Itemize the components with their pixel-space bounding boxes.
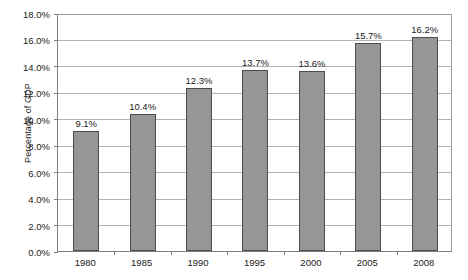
bar-slot: 13.7% (227, 14, 283, 251)
bar-value-label: 15.7% (355, 30, 382, 41)
bar[interactable] (242, 70, 268, 251)
x-tick-mark (227, 251, 228, 255)
y-tick-label: 8.0% (4, 141, 50, 152)
bar[interactable] (412, 37, 438, 251)
y-tick-label: 2.0% (4, 220, 50, 231)
x-tick-label: 1980 (75, 257, 96, 268)
bar[interactable] (186, 88, 212, 251)
x-tick-mark (397, 251, 398, 255)
x-tick-label: 1985 (131, 257, 152, 268)
bar-value-label: 9.1% (75, 118, 97, 129)
bar-slot: 13.6% (284, 14, 340, 251)
x-tick-label: 2005 (357, 257, 378, 268)
y-tick-label: 6.0% (4, 167, 50, 178)
x-tick-mark (284, 251, 285, 255)
bar-value-label: 13.6% (298, 58, 325, 69)
bar-series: 9.1%10.4%12.3%13.7%13.6%15.7%16.2% (58, 14, 452, 251)
bar-slot: 9.1% (58, 14, 114, 251)
bar-slot: 15.7% (340, 14, 396, 251)
y-tick-label: 10.0% (4, 114, 50, 125)
y-axis-tick-labels: 0.0%2.0%4.0%6.0%8.0%10.0%12.0%14.0%16.0%… (4, 0, 50, 280)
x-tick-mark (114, 251, 115, 255)
y-tick-label: 14.0% (4, 61, 50, 72)
y-tick-label: 16.0% (4, 35, 50, 46)
bar-slot: 16.2% (397, 14, 453, 251)
x-tick-mark (171, 251, 172, 255)
bar-value-label: 12.3% (186, 75, 213, 86)
x-tick-label: 1990 (187, 257, 208, 268)
bar-chart: Percentage of GDP 0.0%2.0%4.0%6.0%8.0%10… (0, 0, 468, 280)
y-tick-label: 18.0% (4, 9, 50, 20)
bar[interactable] (299, 71, 325, 251)
bar-value-label: 16.2% (411, 24, 438, 35)
x-tick-label: 1995 (244, 257, 265, 268)
plot-area: 9.1%10.4%12.3%13.7%13.6%15.7%16.2% (57, 14, 452, 252)
y-tick-label: 4.0% (4, 194, 50, 205)
bar-value-label: 13.7% (242, 57, 269, 68)
y-tick-label: 0.0% (4, 247, 50, 258)
bar-slot: 12.3% (171, 14, 227, 251)
x-tick-label: 2008 (413, 257, 434, 268)
y-tick-mark (54, 252, 58, 253)
x-tick-label: 2000 (300, 257, 321, 268)
bar-value-label: 10.4% (129, 101, 156, 112)
y-tick-label: 12.0% (4, 88, 50, 99)
x-axis-tick-labels: 1980198519901995200020052008 (57, 257, 452, 277)
x-tick-mark (340, 251, 341, 255)
bar[interactable] (355, 43, 381, 251)
bar-slot: 10.4% (114, 14, 170, 251)
bar[interactable] (73, 131, 99, 251)
bar[interactable] (130, 114, 156, 252)
